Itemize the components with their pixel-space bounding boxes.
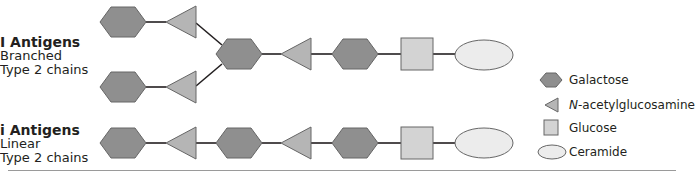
- legend-icons: [538, 73, 566, 159]
- galactose-icon: [332, 128, 378, 158]
- ceramide-icon: [455, 128, 513, 158]
- branched-type-text: Type 2 chains: [0, 63, 88, 77]
- glucose-icon: [401, 38, 433, 70]
- legend-nacetylglucosamine-label: N-acetylglucosamine: [569, 98, 695, 112]
- nacetylglucosamine-icon: [281, 38, 311, 70]
- legend-nacetyl-prefix: N: [569, 98, 578, 112]
- glucose-icon: [401, 127, 433, 159]
- galactose-icon: [216, 39, 262, 69]
- legend-nacetyl-rest: -acetylglucosamine: [578, 98, 695, 112]
- legend-nacetylglucosamine-icon: [545, 98, 558, 112]
- small-i-antigens-title: i Antigens: [0, 123, 88, 137]
- galactose-icon: [100, 7, 146, 37]
- ceramide-icon: [455, 40, 513, 70]
- nacetylglucosamine-icon: [166, 71, 196, 103]
- nacetylglucosamine-icon: [166, 6, 196, 38]
- branched-label: I Antigens Branched Type 2 chains: [0, 35, 88, 77]
- legend-glucose-icon: [544, 120, 558, 135]
- legend-galactose-icon: [540, 73, 562, 87]
- branched-subtitle: Branched: [0, 49, 88, 63]
- linear-type-text: Type 2 chains: [0, 151, 88, 165]
- legend-ceramide-icon: [538, 145, 566, 159]
- bottom-divider: [8, 170, 676, 171]
- legend-ceramide-label: Ceramide: [569, 145, 627, 159]
- linear-label: i Antigens Linear Type 2 chains: [0, 123, 88, 165]
- galactose-icon: [216, 128, 262, 158]
- i-antigens-title: I Antigens: [0, 35, 88, 49]
- legend-glucose-label: Glucose: [569, 121, 617, 135]
- galactose-icon: [100, 72, 146, 102]
- galactose-icon: [332, 39, 378, 69]
- galactose-icon: [100, 128, 146, 158]
- nacetylglucosamine-icon: [281, 127, 311, 159]
- legend-galactose-label: Galactose: [569, 73, 629, 87]
- nacetylglucosamine-icon: [166, 127, 196, 159]
- linear-subtitle: Linear: [0, 137, 88, 151]
